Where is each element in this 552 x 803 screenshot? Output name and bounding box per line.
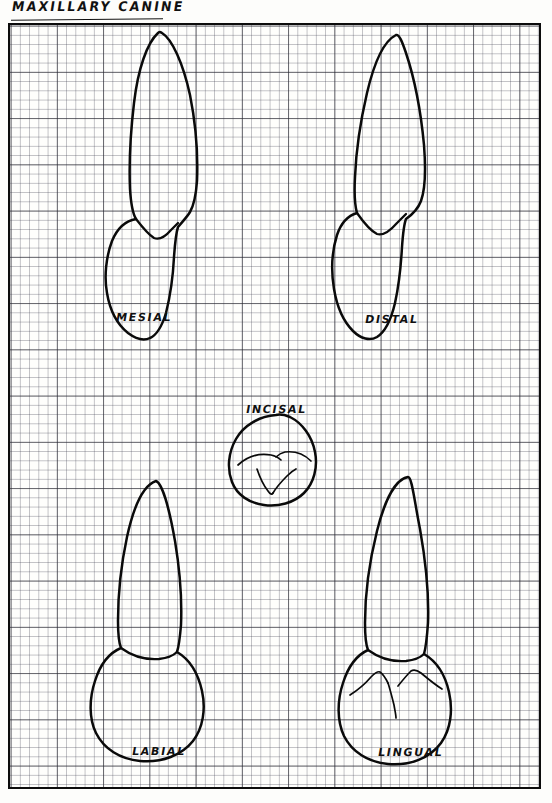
view-label-labial: LABIAL: [131, 745, 187, 758]
view-label-mesial: MESIAL: [115, 311, 173, 324]
incisal-cingulum-v: [273, 469, 296, 493]
mesial-cervical-line: [136, 219, 178, 239]
distal-cervical-line: [357, 213, 406, 234]
incisal-distal-ridge: [276, 452, 311, 461]
lingual-distal-marginal-ridge: [398, 670, 442, 689]
view-label-lingual: LINGUAL: [377, 746, 445, 759]
drawing-sheet: MAXILLARY CANINE: [0, 0, 552, 803]
view-label-incisal: INCISAL: [245, 403, 308, 416]
incisal-mesial-ridge: [238, 454, 281, 465]
page-title-block: MAXILLARY CANINE: [9, 0, 309, 24]
labial-outline: [91, 481, 204, 761]
distal-outline: [332, 35, 425, 339]
page-title: MAXILLARY CANINE: [11, 0, 186, 14]
mesial-outline: [106, 32, 198, 340]
lingual-cervical-line: [368, 650, 424, 661]
labial-cervical-line: [121, 648, 177, 659]
view-label-distal: DISTAL: [364, 313, 420, 326]
lingual-outline: [339, 477, 451, 764]
lingual-mesial-marginal-ridge: [350, 672, 388, 695]
incisal-outline: [229, 415, 316, 506]
tooth-view-distal: [332, 35, 425, 339]
tooth-view-mesial: [106, 32, 198, 340]
tooth-view-labial: [91, 481, 204, 761]
lingual-ridge: [388, 683, 396, 718]
tooth-view-lingual: [339, 477, 451, 764]
title-underline: [11, 18, 163, 20]
graph-paper-frame: MESIAL DISTAL INCISAL LABIAL LINGUAL: [8, 23, 541, 789]
tooth-view-incisal: [229, 415, 316, 506]
incisal-cusp-ridge: [257, 469, 273, 494]
